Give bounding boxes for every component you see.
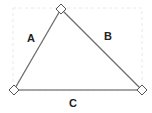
- vertex-handle-bottom-left-icon[interactable]: [9, 85, 19, 95]
- edge-label-c: C: [69, 98, 77, 109]
- edge-label-a: A: [27, 33, 35, 44]
- edge-b: [61, 9, 142, 90]
- selection-frame: [13, 8, 142, 90]
- edge-label-b: B: [104, 31, 112, 42]
- edge-a: [14, 9, 61, 90]
- triangle-diagram: A B C: [0, 0, 152, 113]
